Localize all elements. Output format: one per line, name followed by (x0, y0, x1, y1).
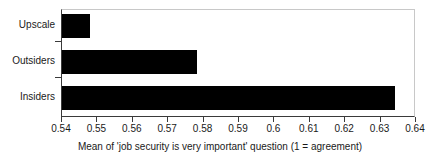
x-axis-tick-label: 0.54 (41, 123, 81, 134)
plot-area (61, 9, 415, 117)
x-axis-tick-label: 0.62 (324, 123, 364, 134)
x-axis-tick-label: 0.63 (360, 123, 400, 134)
x-axis-tick (273, 117, 274, 122)
x-axis-tick (344, 117, 345, 122)
x-axis-tick (238, 117, 239, 122)
x-axis-tick (61, 117, 62, 122)
x-axis-tick-label: 0.6 (253, 123, 293, 134)
bar-insiders[interactable] (62, 86, 395, 110)
x-axis-tick-label: 0.56 (112, 123, 152, 134)
x-axis-tick-label: 0.55 (76, 123, 116, 134)
y-axis-label-outsiders: Outsiders (0, 56, 55, 66)
y-axis-label-insiders: Insiders (0, 92, 55, 102)
x-axis-tick-label: 0.57 (147, 123, 187, 134)
y-axis-tick (55, 41, 61, 42)
x-axis-tick-label: 0.64 (395, 123, 435, 134)
y-axis-tick (55, 77, 61, 78)
x-axis-title: Mean of 'job security is very important'… (0, 141, 440, 153)
x-axis-tick-label: 0.59 (218, 123, 258, 134)
x-axis-tick (380, 117, 381, 122)
bar-outsiders[interactable] (62, 50, 197, 74)
x-axis-tick-label: 0.58 (183, 123, 223, 134)
y-axis-label-upscale: Upscale (0, 20, 55, 30)
x-axis-tick-label: 0.61 (289, 123, 329, 134)
x-axis-tick (167, 117, 168, 122)
bar-chart-figure: Upscale Outsiders Insiders 0.540.550.560… (0, 0, 440, 164)
x-axis-tick (309, 117, 310, 122)
x-axis-tick (96, 117, 97, 122)
x-axis-tick (203, 117, 204, 122)
bar-upscale[interactable] (62, 14, 90, 38)
x-axis-tick (132, 117, 133, 122)
x-axis-tick (415, 117, 416, 122)
